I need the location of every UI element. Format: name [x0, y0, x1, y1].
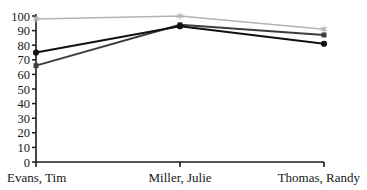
y-axis-tick-label: 20 [18, 126, 31, 140]
chart-series [33, 23, 327, 55]
x-axis-category-label: Miller, Julie [148, 170, 211, 185]
y-axis-tick-label: 30 [18, 112, 31, 126]
series-marker-square [322, 32, 327, 37]
y-axis-tick-label: 40 [18, 97, 31, 111]
y-axis-tick-label: 70 [18, 53, 31, 67]
y-axis-tick-label: 50 [18, 83, 31, 97]
series-marker-square [34, 63, 39, 68]
y-axis-tick-label: 0 [24, 156, 30, 170]
series-marker-circle [33, 49, 39, 55]
y-axis-tick-label: 80 [18, 39, 31, 53]
series-marker-circle [177, 23, 183, 29]
x-axis-category-label: Evans, Tim [7, 170, 66, 185]
line-chart: 0102030405060708090100Evans, TimMiller, … [0, 0, 367, 190]
series-marker-circle [321, 41, 327, 47]
chart-plot-area: 0102030405060708090100Evans, TimMiller, … [0, 0, 367, 190]
y-axis-tick-label: 100 [11, 10, 30, 24]
y-axis-tick-label: 10 [18, 141, 31, 155]
x-axis-category-label: Thomas, Randy [278, 170, 361, 185]
y-axis-tick-label: 60 [18, 68, 31, 82]
series-line [36, 26, 324, 52]
y-axis-tick-label: 90 [18, 24, 31, 38]
